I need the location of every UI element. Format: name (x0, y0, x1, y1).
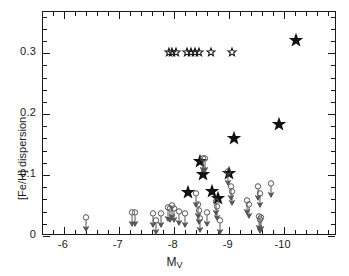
data-point-open-star (170, 46, 181, 57)
x-tick (64, 227, 65, 234)
x-tick (97, 230, 98, 234)
y-tick-right (331, 78, 335, 79)
y-tick-right (331, 90, 335, 91)
x-tick-top (185, 12, 186, 16)
y-tick (43, 41, 47, 42)
y-tick (43, 29, 47, 30)
x-tick-top (64, 12, 65, 19)
data-point-open-star (206, 46, 217, 57)
y-tick-right (331, 17, 335, 18)
x-tick (251, 230, 252, 234)
y-tick (43, 17, 47, 18)
x-tick (207, 230, 208, 234)
x-tick (240, 230, 241, 234)
x-tick-label: -9 (208, 238, 248, 250)
figure-canvas: -6-7-8-9-100.30.20.10 (0, 0, 349, 276)
data-point-filled-star (288, 32, 305, 49)
y-tick-right (331, 151, 335, 152)
x-tick-label: -7 (98, 238, 138, 250)
y-tick (43, 212, 47, 213)
y-tick (43, 53, 50, 54)
data-point-upper-limit (199, 154, 210, 174)
x-tick-top (229, 12, 230, 19)
x-tick-top (108, 12, 109, 16)
x-tick-label: -10 (263, 238, 303, 250)
y-tick-right (331, 212, 335, 213)
data-point-upper-limit (265, 179, 276, 199)
x-tick (295, 230, 296, 234)
x-tick-top (317, 12, 318, 16)
x-tick (306, 230, 307, 234)
x-tick-top (273, 12, 274, 16)
y-tick (43, 102, 47, 103)
data-point-upper-limit (179, 209, 190, 229)
x-tick (141, 230, 142, 234)
x-tick-top (53, 12, 54, 16)
data-point-upper-limit (254, 189, 265, 209)
x-tick-top (262, 12, 263, 16)
y-tick-right (331, 102, 335, 103)
x-tick (119, 227, 120, 234)
y-tick (43, 236, 50, 237)
data-point-upper-limit (130, 208, 141, 228)
y-tick (43, 126, 47, 127)
x-tick-top (97, 12, 98, 16)
y-tick-right (331, 65, 335, 66)
y-tick-right (328, 53, 335, 54)
y-tick-right (331, 187, 335, 188)
y-tick-label: 0 (8, 228, 36, 240)
x-tick-top (251, 12, 252, 16)
x-tick (229, 227, 230, 234)
y-tick (43, 78, 47, 79)
y-tick (43, 151, 47, 152)
x-tick (185, 230, 186, 234)
x-tick-label: -8 (153, 238, 193, 250)
data-point-filled-star (226, 129, 243, 146)
x-tick-top (75, 12, 76, 16)
x-tick (328, 230, 329, 234)
x-tick-top (218, 12, 219, 16)
x-tick-top (86, 12, 87, 16)
y-tick (43, 224, 47, 225)
y-tick-right (331, 41, 335, 42)
x-tick-top (306, 12, 307, 16)
y-tick-right (331, 163, 335, 164)
x-tick-top (163, 12, 164, 16)
x-tick (273, 230, 274, 234)
y-tick-right (328, 236, 335, 237)
y-tick (43, 114, 50, 115)
y-tick (43, 65, 47, 66)
y-tick-right (331, 126, 335, 127)
x-tick (284, 227, 285, 234)
data-point-open-star (226, 46, 237, 57)
x-tick (317, 230, 318, 234)
data-point-upper-limit (214, 216, 225, 236)
data-point-upper-limit (227, 187, 238, 207)
y-tick (43, 163, 47, 164)
data-point-upper-limit (81, 213, 92, 233)
x-tick (75, 230, 76, 234)
x-tick (108, 230, 109, 234)
y-tick (43, 90, 47, 91)
x-tick-top (174, 12, 175, 19)
y-tick-right (331, 138, 335, 139)
y-tick (43, 199, 47, 200)
x-tick-top (284, 12, 285, 19)
data-point-open-star (193, 46, 204, 57)
x-tick (130, 230, 131, 234)
x-axis-title: MV (0, 255, 349, 270)
x-axis-title-main: M (166, 255, 176, 269)
y-tick-label: 0.3 (8, 45, 36, 57)
x-tick-top (152, 12, 153, 16)
x-tick-top (207, 12, 208, 16)
x-tick-top (295, 12, 296, 16)
x-tick (53, 230, 54, 234)
y-tick (43, 138, 47, 139)
data-point-filled-star (270, 116, 287, 133)
y-tick (43, 175, 50, 176)
x-tick-top (130, 12, 131, 16)
y-tick (43, 187, 47, 188)
x-axis-title-sub: V (176, 260, 182, 270)
x-tick-top (240, 12, 241, 16)
x-tick (163, 230, 164, 234)
